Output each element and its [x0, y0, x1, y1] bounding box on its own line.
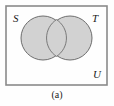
figure-caption: (a): [0, 90, 114, 100]
set-label-u: U: [93, 69, 101, 80]
venn-diagram-figure: S T U (a): [0, 0, 114, 106]
set-label-s: S: [13, 13, 19, 24]
set-label-t: T: [92, 13, 98, 24]
